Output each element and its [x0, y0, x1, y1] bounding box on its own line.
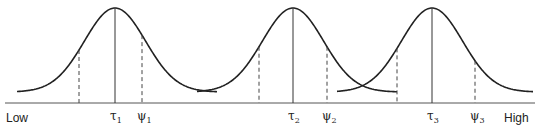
bell-curve	[337, 8, 533, 92]
bell-curve	[17, 8, 217, 92]
tau-label: τ3	[427, 109, 439, 125]
curve-2: τ2ψ2	[197, 8, 397, 125]
tau-label: τ2	[288, 109, 300, 125]
axis-low-label: Low	[6, 111, 28, 125]
curve-1: τ1ψ1	[17, 8, 217, 125]
axis-high-label: High	[504, 111, 529, 125]
curve-3: τ3ψ3	[337, 8, 533, 125]
distribution-diagram: τ1ψ1τ2ψ2τ3ψ3 Low High	[0, 0, 540, 130]
psi-label: ψ3	[470, 109, 485, 125]
bell-curve	[197, 8, 397, 92]
tau-label: τ1	[110, 109, 122, 125]
curves-layer: τ1ψ1τ2ψ2τ3ψ3	[17, 8, 533, 125]
psi-label: ψ1	[137, 109, 152, 125]
psi-label: ψ2	[322, 109, 337, 125]
